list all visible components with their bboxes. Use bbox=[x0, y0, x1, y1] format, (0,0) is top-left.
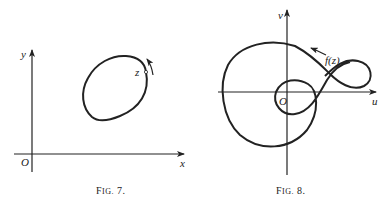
fig7-point-label: z bbox=[135, 67, 139, 78]
fig8-caption: FIG. 8. bbox=[276, 185, 306, 196]
fig7-y-axis-label: y bbox=[21, 49, 26, 60]
fig8-u-axis-label: u bbox=[372, 96, 378, 107]
fig8-v-axis-label: v bbox=[278, 10, 283, 21]
fig8-origin-label: O bbox=[279, 96, 287, 107]
figure-7 bbox=[14, 50, 184, 172]
fig7-point-z bbox=[144, 70, 147, 73]
fig7-caption: FIG. 7. bbox=[96, 185, 126, 196]
fig8-curve-label: f(z) bbox=[325, 55, 340, 66]
fig8-direction-arrow-icon bbox=[311, 48, 326, 55]
fig7-origin-label: O bbox=[21, 157, 29, 168]
fig8-spiral-curve bbox=[223, 43, 371, 147]
figure-8 bbox=[218, 10, 376, 175]
fig7-x-axis-label: x bbox=[180, 158, 185, 169]
figures-canvas bbox=[0, 0, 390, 199]
